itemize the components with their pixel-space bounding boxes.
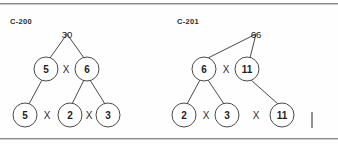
tree-node-value: 2 xyxy=(67,110,73,121)
multiplication-operator: X xyxy=(44,110,51,121)
tree-node-value: 5 xyxy=(43,64,49,75)
tree-edge xyxy=(187,80,200,104)
tree-node-value: 6 xyxy=(201,64,207,75)
factor-tree-figure-page: C-200 3056523XXX C-201 666112311XXX xyxy=(0,0,338,144)
tree-node-value: 6 xyxy=(84,64,90,75)
tree-node-value: 2 xyxy=(181,110,187,121)
tree-edge xyxy=(208,80,224,104)
multiplication-operator: X xyxy=(253,110,260,121)
figure-c-200: C-200 3056523XXX xyxy=(0,0,169,144)
tree-node-value: 3 xyxy=(224,110,230,121)
tree-node-value: 11 xyxy=(277,110,288,121)
tree-edge xyxy=(208,34,256,58)
tree-node-value: 5 xyxy=(22,110,28,121)
tree-edge xyxy=(72,80,84,104)
multiplication-operator: X xyxy=(223,64,230,75)
tree-root-value: 66 xyxy=(251,29,262,40)
factor-tree-svg-c-200: 3056523XXX xyxy=(0,0,169,144)
tree-edge xyxy=(29,80,42,104)
tree-edge xyxy=(251,80,278,104)
multiplication-operator: X xyxy=(63,64,70,75)
tree-node-value: 3 xyxy=(105,110,111,121)
multiplication-operator: X xyxy=(203,110,210,121)
tree-edge xyxy=(90,80,105,104)
factor-tree-svg-c-201: 666112311XXX xyxy=(169,0,338,144)
figure-c-201: C-201 666112311XXX xyxy=(169,0,338,144)
tree-node-value: 11 xyxy=(242,64,253,75)
tree-root-value: 30 xyxy=(62,29,73,40)
multiplication-operator: X xyxy=(86,110,93,121)
